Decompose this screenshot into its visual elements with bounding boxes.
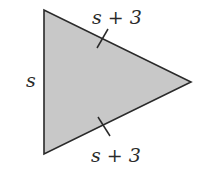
left-side-label: s xyxy=(26,69,36,91)
isosceles-triangle xyxy=(44,10,191,154)
bottom-side-label: s + 3 xyxy=(91,144,141,166)
triangle-diagram: s s + 3 s + 3 xyxy=(0,0,204,170)
top-side-label: s + 3 xyxy=(92,6,142,28)
